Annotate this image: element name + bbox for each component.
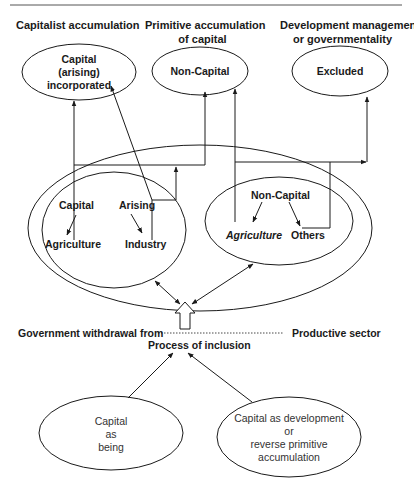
node-development-line1: Capital as development bbox=[229, 412, 349, 425]
node-non-capital: Non-Capital bbox=[155, 65, 245, 78]
header-development-management: Development management or governmentalit… bbox=[280, 18, 405, 46]
header-primitive-line2: of capital bbox=[145, 32, 260, 46]
node-capital-line2: (arising) bbox=[34, 66, 124, 79]
node-development-line2: or bbox=[229, 425, 349, 438]
node-excluded: Excluded bbox=[295, 65, 385, 78]
node-capital-line3: incorporated bbox=[34, 79, 124, 92]
node-capital-incorporated: Capital (arising) incorporated bbox=[34, 53, 124, 92]
label-productive-sector: Productive sector bbox=[292, 327, 381, 340]
header-primitive-line1: Primitive accumulation bbox=[145, 18, 260, 32]
node-being-line3: being bbox=[71, 441, 151, 454]
label-industry: Industry bbox=[125, 238, 166, 251]
node-development-line3: reverse primitive bbox=[229, 438, 349, 451]
ellipse-inner-left bbox=[42, 172, 186, 288]
label-government-withdrawal: Government withdrawal from bbox=[18, 327, 163, 340]
block-arrow-up bbox=[175, 302, 195, 329]
node-development-line4: accumulation bbox=[229, 451, 349, 464]
node-being-line2: as bbox=[71, 428, 151, 441]
header-development-line1: Development management bbox=[280, 18, 405, 32]
label-others: Others bbox=[291, 229, 325, 242]
header-development-line2: or governmentality bbox=[280, 32, 405, 46]
node-capital-as-development: Capital as development or reverse primit… bbox=[229, 412, 349, 464]
header-capitalist-accumulation: Capitalist accumulation bbox=[16, 18, 139, 32]
label-capital: Capital bbox=[59, 199, 94, 212]
label-non-capital-inner: Non-Capital bbox=[251, 189, 310, 202]
node-capital-line1: Capital bbox=[34, 53, 124, 66]
label-agriculture-right: Agriculture bbox=[226, 229, 282, 242]
label-process-of-inclusion: Process of inclusion bbox=[148, 339, 251, 352]
label-arising: Arising bbox=[119, 199, 155, 212]
label-agriculture-left: Agriculture bbox=[45, 238, 101, 251]
node-capital-as-being: Capital as being bbox=[71, 415, 151, 454]
header-primitive-accumulation: Primitive accumulation of capital bbox=[145, 18, 260, 46]
node-being-line1: Capital bbox=[71, 415, 151, 428]
